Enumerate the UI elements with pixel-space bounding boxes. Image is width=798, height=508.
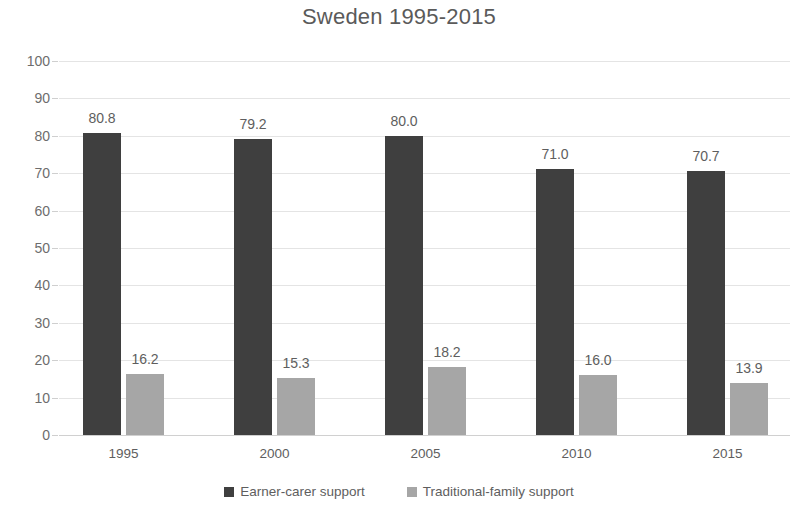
bar	[730, 383, 768, 435]
x-axis-tick-label: 2010	[537, 447, 617, 461]
gridline	[59, 136, 790, 137]
gridline	[59, 98, 790, 99]
x-axis-tick-label: 1995	[84, 447, 164, 461]
legend-label: Earner-carer support	[240, 484, 365, 499]
bar-value-label: 71.0	[524, 147, 586, 161]
y-axis-tick-mark	[52, 211, 58, 212]
legend-swatch-icon	[224, 487, 234, 497]
gridline	[59, 173, 790, 174]
chart-title: Sweden 1995-2015	[0, 4, 798, 30]
legend-item[interactable]: Earner-carer support	[224, 484, 365, 499]
bar-value-label: 80.0	[373, 114, 435, 128]
bar	[687, 171, 725, 435]
gridline	[59, 61, 790, 62]
bar-value-label: 13.9	[718, 361, 780, 375]
bar-value-label: 18.2	[416, 345, 478, 359]
y-axis-tick-marks	[0, 61, 59, 435]
gridline	[59, 435, 790, 436]
x-axis-tick-label: 2015	[688, 447, 768, 461]
y-axis-tick-mark	[52, 173, 58, 174]
bar	[234, 139, 272, 435]
y-axis-tick-mark	[52, 285, 58, 286]
legend-swatch-icon	[407, 487, 417, 497]
bar-value-label: 15.3	[265, 356, 327, 370]
legend-label: Traditional-family support	[423, 484, 574, 499]
bar-value-label: 70.7	[675, 149, 737, 163]
y-axis-tick-mark	[52, 98, 58, 99]
x-axis-tick-label: 2000	[235, 447, 315, 461]
bar	[579, 375, 617, 435]
plot-area: 80.816.279.215.380.018.271.016.070.713.9	[59, 61, 790, 435]
bar-value-label: 80.8	[71, 111, 133, 125]
chart-legend: Earner-carer supportTraditional-family s…	[0, 484, 798, 499]
bar	[83, 133, 121, 435]
y-axis-tick-mark	[52, 136, 58, 137]
y-axis-tick-mark	[52, 61, 58, 62]
bar	[126, 374, 164, 435]
bar	[536, 169, 574, 435]
bar	[428, 367, 466, 435]
bar-value-label: 16.0	[567, 353, 629, 367]
y-axis-tick-mark	[52, 398, 58, 399]
x-axis-tick-label: 2005	[386, 447, 466, 461]
legend-item[interactable]: Traditional-family support	[407, 484, 574, 499]
y-axis-tick-mark	[52, 360, 58, 361]
y-axis-tick-mark	[52, 248, 58, 249]
gridline	[59, 248, 790, 249]
bar	[385, 136, 423, 435]
gridline	[59, 211, 790, 212]
bar-value-label: 79.2	[222, 117, 284, 131]
gridline	[59, 285, 790, 286]
gridline	[59, 398, 790, 399]
bar-chart: Sweden 1995-2015 1009080706050403020100 …	[0, 0, 798, 508]
y-axis-tick-mark	[52, 435, 58, 436]
bar-value-label: 16.2	[114, 352, 176, 366]
bar	[277, 378, 315, 435]
y-axis-tick-mark	[52, 323, 58, 324]
gridline	[59, 323, 790, 324]
